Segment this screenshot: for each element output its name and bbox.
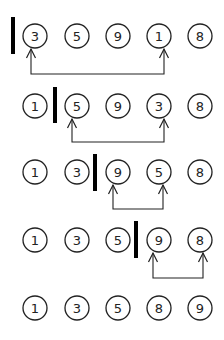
- array-node: 3: [147, 94, 171, 118]
- array-node: 9: [106, 94, 130, 118]
- node-value: 9: [155, 233, 163, 248]
- array-node: 3: [65, 160, 89, 184]
- node-value: 3: [31, 29, 39, 44]
- swap-connector: [72, 119, 164, 142]
- array-node: 8: [188, 94, 212, 118]
- node-value: 8: [196, 29, 204, 44]
- array-node: 5: [106, 296, 130, 320]
- array-node: 3: [23, 24, 47, 48]
- node-value: 3: [73, 165, 81, 180]
- array-row: 13958: [23, 154, 212, 209]
- array-node: 9: [106, 160, 130, 184]
- node-value: 5: [114, 301, 122, 316]
- node-value: 5: [155, 165, 163, 180]
- array-row: 15938: [23, 87, 212, 142]
- node-value: 1: [155, 29, 163, 44]
- node-value: 9: [114, 165, 122, 180]
- array-node: 8: [188, 24, 212, 48]
- array-node: 1: [23, 296, 47, 320]
- node-value: 5: [114, 233, 122, 248]
- node-value: 1: [31, 233, 39, 248]
- sorted-boundary-bar: [53, 87, 57, 123]
- array-node: 9: [147, 228, 171, 252]
- array-node: 1: [147, 24, 171, 48]
- array-node: 3: [65, 228, 89, 252]
- node-value: 3: [155, 99, 163, 114]
- array-node: 5: [65, 24, 89, 48]
- node-value: 9: [114, 99, 122, 114]
- node-value: 1: [31, 301, 39, 316]
- array-node: 5: [65, 94, 89, 118]
- node-value: 5: [73, 29, 81, 44]
- node-value: 1: [31, 165, 39, 180]
- rows-layer: 3591815938139581359813589: [11, 17, 212, 320]
- node-value: 3: [73, 301, 81, 316]
- sorted-boundary-bar: [11, 17, 15, 54]
- node-value: 8: [155, 301, 163, 316]
- array-node: 9: [106, 24, 130, 48]
- array-node: 1: [23, 228, 47, 252]
- array-node: 5: [106, 228, 130, 252]
- swap-connector: [31, 49, 164, 74]
- node-value: 8: [196, 233, 204, 248]
- sorted-boundary-bar: [134, 221, 138, 258]
- node-value: 3: [73, 233, 81, 248]
- node-value: 5: [73, 99, 81, 114]
- node-value: 9: [196, 301, 204, 316]
- array-node: 3: [65, 296, 89, 320]
- array-row: 35918: [11, 17, 212, 74]
- array-node: 8: [188, 160, 212, 184]
- array-node: 1: [23, 160, 47, 184]
- swap-connector: [153, 253, 203, 278]
- node-value: 8: [196, 99, 204, 114]
- node-value: 9: [114, 29, 122, 44]
- array-row: 13589: [23, 296, 212, 320]
- sorted-boundary-bar: [93, 154, 97, 191]
- array-node: 8: [188, 228, 212, 252]
- swap-connector: [113, 185, 163, 209]
- array-node: 1: [23, 94, 47, 118]
- node-value: 1: [31, 99, 39, 114]
- node-value: 8: [196, 165, 204, 180]
- selection-sort-diagram: 3591815938139581359813589: [0, 0, 224, 340]
- array-node: 5: [147, 160, 171, 184]
- array-row: 13598: [23, 221, 212, 278]
- array-node: 9: [188, 296, 212, 320]
- array-node: 8: [147, 296, 171, 320]
